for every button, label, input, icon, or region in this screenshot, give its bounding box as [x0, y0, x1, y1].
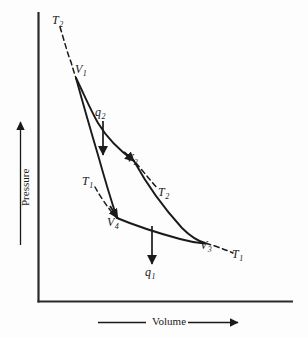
label-t2-upper: T2 — [52, 14, 63, 26]
label-q2: q2 — [95, 106, 105, 118]
label-q1: q1 — [145, 266, 155, 278]
label-v3: V3 — [200, 239, 211, 251]
axis-lines — [38, 12, 294, 303]
isotherm-t2-dashed-upper — [60, 27, 76, 78]
volume-axis-label: Volume — [152, 316, 186, 327]
isotherm-t2-dashed-lower — [136, 163, 158, 189]
label-v2: V2 — [126, 152, 137, 164]
pv-diagram-figure: T2 V1 q2 V2 T2 T1 V4 q1 V3 T1 Pressure V… — [0, 0, 308, 338]
label-t2-lower: T2 — [158, 186, 169, 198]
pressure-axis-label: Pressure — [20, 169, 31, 206]
label-v4: V4 — [107, 216, 118, 228]
label-t1-left: T1 — [82, 175, 93, 187]
label-t1-right: T1 — [232, 248, 243, 260]
label-v1: V1 — [75, 63, 86, 75]
isotherm-t1-dashed-left — [95, 187, 116, 217]
isotherm-t1-solid — [117, 218, 205, 244]
adiabat-v1-v4 — [76, 78, 117, 218]
